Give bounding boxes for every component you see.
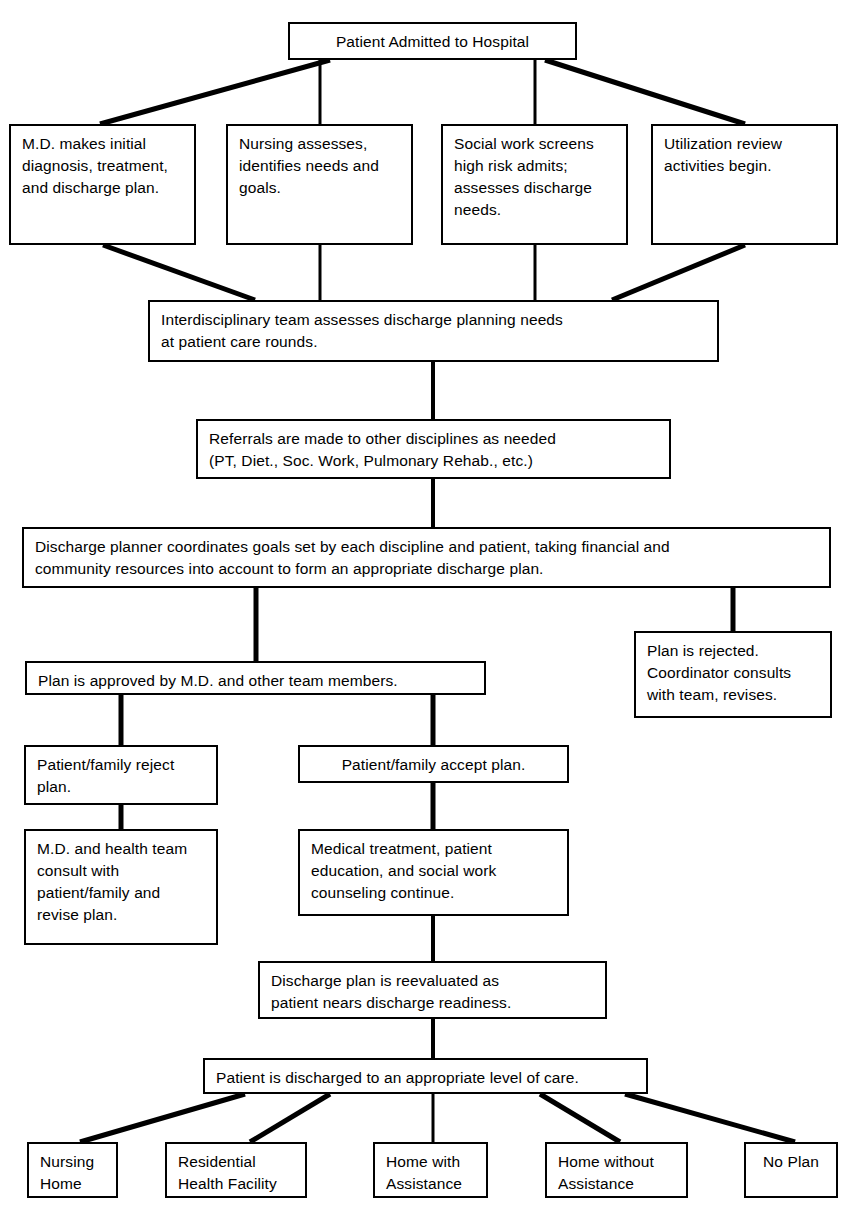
md-initial-to-team: [103, 245, 255, 300]
admitted-to-utilization: [545, 60, 745, 124]
discharged-to-home-without: [540, 1094, 620, 1142]
node-medical_tx: Medical treatment, patient education, an…: [298, 829, 569, 916]
node-nursing_home: Nursing Home: [27, 1142, 118, 1198]
node-no_plan: No Plan: [744, 1142, 838, 1198]
node-social_work: Social work screens high risk admits; as…: [441, 124, 628, 245]
node-family_accept: Patient/family accept plan.: [298, 745, 569, 783]
node-admitted: Patient Admitted to Hospital: [288, 22, 577, 60]
discharged-to-nursing-home: [80, 1094, 245, 1142]
node-planner: Discharge planner coordinates goals set …: [22, 527, 831, 588]
node-rejected: Plan is rejected. Coordinator consults w…: [634, 631, 832, 718]
node-nursing: Nursing assesses, identifies needs and g…: [226, 124, 413, 245]
node-md_consult: M.D. and health team consult with patien…: [24, 829, 218, 945]
node-referrals: Referrals are made to other disciplines …: [196, 419, 671, 479]
utilization-to-team: [612, 245, 745, 300]
node-discharged: Patient is discharged to an appropriate …: [203, 1058, 648, 1094]
node-res_health: Residential Health Facility: [165, 1142, 307, 1198]
node-family_reject: Patient/family reject plan.: [24, 745, 218, 805]
discharged-to-res-health: [250, 1094, 330, 1142]
node-home_with: Home with Assistance: [373, 1142, 488, 1198]
node-md_initial: M.D. makes initial diagnosis, treatment,…: [9, 124, 196, 245]
node-team_assess: Interdisciplinary team assesses discharg…: [148, 300, 719, 362]
flowchart-page: Patient Admitted to HospitalM.D. makes i…: [0, 0, 851, 1214]
node-approved: Plan is approved by M.D. and other team …: [25, 661, 486, 695]
admitted-to-md-initial: [100, 60, 330, 124]
discharged-to-no-plan: [625, 1094, 795, 1142]
node-utilization: Utilization review activities begin.: [651, 124, 838, 245]
node-home_without: Home without Assistance: [545, 1142, 688, 1198]
node-reevaluated: Discharge plan is reevaluated as patient…: [258, 961, 607, 1019]
